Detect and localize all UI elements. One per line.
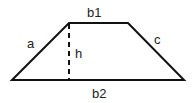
label-h: h [75,46,82,61]
label-a: a [27,36,35,51]
trapezoid-diagram: b1 b2 a c h [0,0,192,103]
label-b1: b1 [87,5,101,20]
label-b2: b2 [92,86,106,101]
label-c: c [154,32,161,47]
